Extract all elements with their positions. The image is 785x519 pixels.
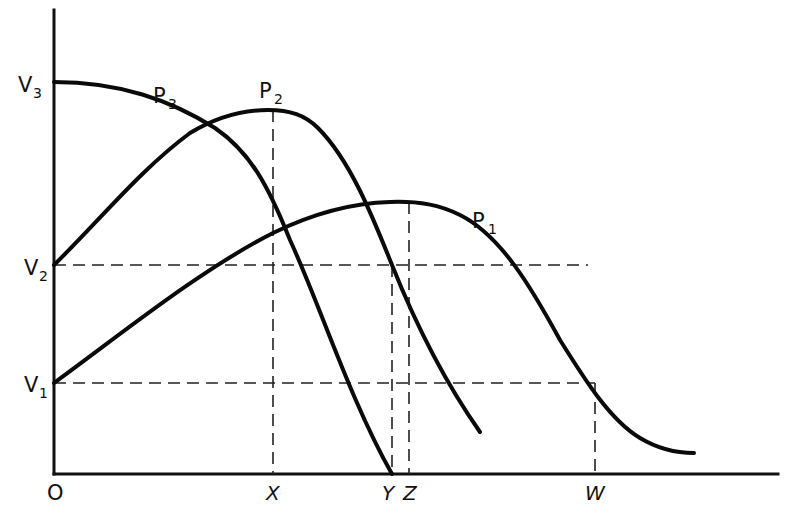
p3-label: P 3: [153, 84, 177, 112]
x-tick-label-x: X: [265, 481, 281, 505]
x-tick-label-z: Z: [402, 481, 418, 505]
svg-text:1: 1: [488, 221, 497, 237]
v1-label: V 1: [24, 373, 48, 401]
svg-text:3: 3: [168, 96, 177, 112]
svg-text:V: V: [18, 73, 33, 97]
v2-label: V 2: [24, 256, 48, 284]
svg-text:2: 2: [39, 268, 48, 284]
x-tick-label-w: W: [585, 481, 606, 505]
svg-text:P: P: [259, 79, 272, 103]
curve-p1: [54, 202, 694, 453]
p2-label: P 2: [259, 79, 283, 107]
svg-text:V: V: [24, 256, 39, 280]
curve-p3: [54, 82, 392, 474]
svg-text:3: 3: [33, 85, 42, 101]
curve-diagram: V 3 V 2 V 1 O X Y Z W P 3 P 2 P 1: [0, 0, 785, 519]
v3-label: V 3: [18, 73, 42, 101]
p1-label: P 1: [472, 209, 497, 237]
svg-text:1: 1: [39, 385, 48, 401]
svg-text:P: P: [153, 84, 166, 108]
svg-text:P: P: [472, 209, 485, 233]
x-tick-label-y: Y: [382, 481, 396, 505]
origin-label: O: [47, 481, 64, 505]
svg-text:2: 2: [274, 91, 283, 107]
svg-text:V: V: [24, 373, 39, 397]
